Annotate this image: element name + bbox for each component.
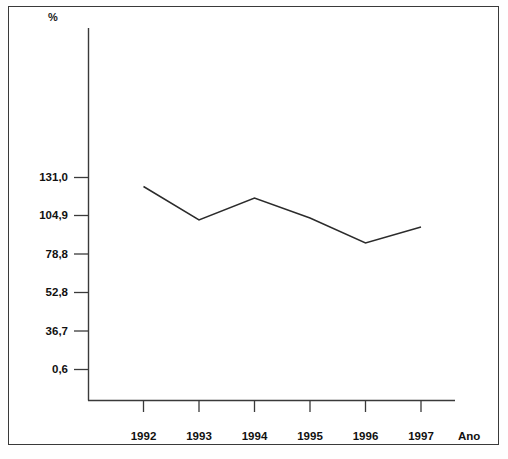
- y-tick-label: 52,8: [14, 286, 68, 298]
- y-tick-label: 36,7: [14, 325, 68, 337]
- x-axis-title: Ano: [458, 430, 480, 442]
- x-tick-label: 1995: [297, 430, 323, 442]
- x-tick-label: 1993: [186, 430, 212, 442]
- y-axis-ticks: [74, 178, 88, 370]
- x-tick-label: 1997: [408, 430, 434, 442]
- y-tick-label: 78,8: [14, 248, 68, 260]
- y-tick-label: 104,9: [14, 209, 68, 221]
- y-tick-label: 131,0: [14, 171, 68, 183]
- x-tick-label: 1994: [242, 430, 268, 442]
- x-tick-label: 1992: [131, 430, 157, 442]
- chart-figure: % 131,0 104,9 78,8 52,8 36,7 0,6 1992 19…: [0, 0, 508, 459]
- y-tick-label: 0,6: [14, 363, 68, 375]
- y-axis-unit-label: %: [48, 11, 58, 23]
- x-axis-ticks: [144, 400, 422, 412]
- plot-area: [0, 0, 508, 459]
- x-tick-label: 1996: [353, 430, 379, 442]
- data-line-series: [144, 187, 422, 244]
